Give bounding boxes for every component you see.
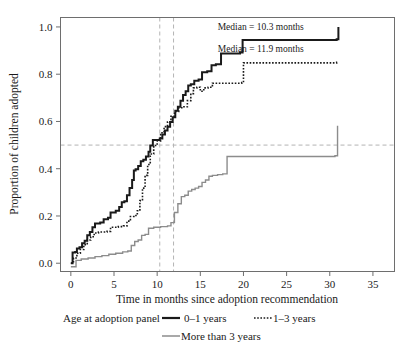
y-tick-label-5: 1.0 bbox=[39, 21, 53, 33]
median-0-1-annotation: Median = 10.3 months bbox=[218, 22, 304, 32]
x-tick-label-6: 30 bbox=[324, 278, 336, 290]
y-tick-label-3: 0.6 bbox=[39, 115, 53, 127]
x-tick-label-3: 15 bbox=[195, 278, 207, 290]
x-tick-label-4: 20 bbox=[238, 278, 250, 290]
y-tick-label-0: 0.0 bbox=[39, 257, 53, 269]
y-tick-label-4: 0.8 bbox=[39, 68, 53, 80]
survival-curve-figure: 05101520253035 0.00.20.40.60.81.0 Median… bbox=[0, 0, 417, 361]
x-tick-label-2: 10 bbox=[152, 278, 164, 290]
legend-label-more-than-3-years: More than 3 years bbox=[181, 330, 261, 342]
legend-label-0-1-years: 0–1 years bbox=[184, 312, 226, 324]
legend-title: Age at adoption panel bbox=[63, 312, 160, 324]
y-tick-label-1: 0.2 bbox=[39, 210, 53, 222]
median-1-3-annotation: Median = 11.9 months bbox=[218, 44, 304, 54]
x-tick-label-5: 25 bbox=[281, 278, 293, 290]
x-tick-label-7: 35 bbox=[367, 278, 379, 290]
x-axis-title: Time in months since adoption recommenda… bbox=[116, 293, 338, 306]
adoption-proportion-chart: 05101520253035 0.00.20.40.60.81.0 Median… bbox=[0, 0, 417, 361]
x-tick-label-0: 0 bbox=[68, 278, 74, 290]
x-tick-label-1: 5 bbox=[111, 278, 117, 290]
y-axis-title: Proportion of children adopted bbox=[8, 73, 21, 215]
legend-label-1-3-years: 1–3 years bbox=[273, 312, 315, 324]
y-tick-label-2: 0.4 bbox=[39, 163, 53, 175]
